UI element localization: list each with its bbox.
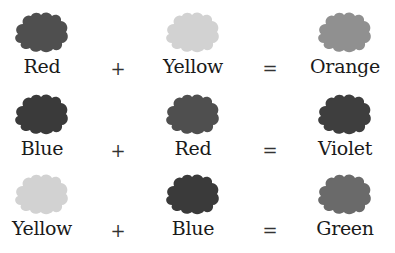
paint-blob-icon <box>164 172 222 216</box>
color-label: Yellow <box>0 217 97 239</box>
paint-blob-icon <box>164 92 222 136</box>
color-label: Red <box>0 55 97 77</box>
swatch-left: Red <box>0 10 97 77</box>
swatch-left: Yellow <box>0 172 97 239</box>
paint-blob-icon <box>13 172 71 216</box>
swatch-right: Yellow <box>138 10 248 77</box>
color-label: Blue <box>138 217 248 239</box>
plus-sign: + <box>108 220 128 242</box>
paint-blob-icon <box>316 172 374 216</box>
color-label: Violet <box>290 137 395 159</box>
equals-sign: = <box>260 220 280 242</box>
paint-blob-icon <box>13 10 71 54</box>
paint-blob-icon <box>316 92 374 136</box>
equation-row-1: Red + Yellow = Orange <box>0 10 395 90</box>
paint-blob-icon <box>316 10 374 54</box>
swatch-left: Blue <box>0 92 97 159</box>
paint-blob-icon <box>13 92 71 136</box>
color-label: Red <box>138 137 248 159</box>
equation-row-3: Yellow + Blue = Green <box>0 172 395 252</box>
paint-blob-icon <box>164 10 222 54</box>
swatch-result: Orange <box>290 10 395 77</box>
color-label: Yellow <box>138 55 248 77</box>
swatch-result: Green <box>290 172 395 239</box>
equals-sign: = <box>260 140 280 162</box>
swatch-result: Violet <box>290 92 395 159</box>
color-label: Orange <box>290 55 395 77</box>
swatch-right: Blue <box>138 172 248 239</box>
color-label: Green <box>290 217 395 239</box>
color-label: Blue <box>0 137 97 159</box>
swatch-right: Red <box>138 92 248 159</box>
equation-row-2: Blue + Red = Violet <box>0 92 395 172</box>
equals-sign: = <box>260 58 280 80</box>
plus-sign: + <box>108 140 128 162</box>
plus-sign: + <box>108 58 128 80</box>
